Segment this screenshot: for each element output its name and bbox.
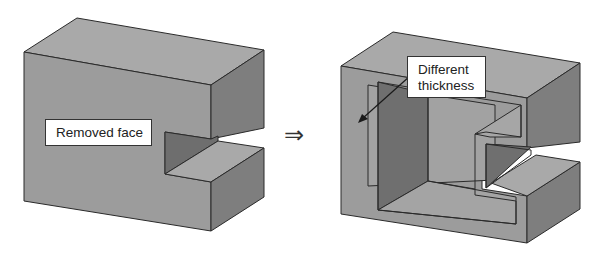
removed-face-label: Removed face xyxy=(45,119,152,146)
thickness-label-line1: Different xyxy=(418,62,485,78)
thickness-label-line2: thickness xyxy=(418,78,485,94)
shell-feature-diagram: ⇒ Removed face Different thickness xyxy=(0,0,600,259)
implies-arrow-icon: ⇒ xyxy=(284,123,304,147)
different-thickness-label: Different thickness xyxy=(407,56,486,98)
removed-face-text: Removed face xyxy=(56,125,143,140)
